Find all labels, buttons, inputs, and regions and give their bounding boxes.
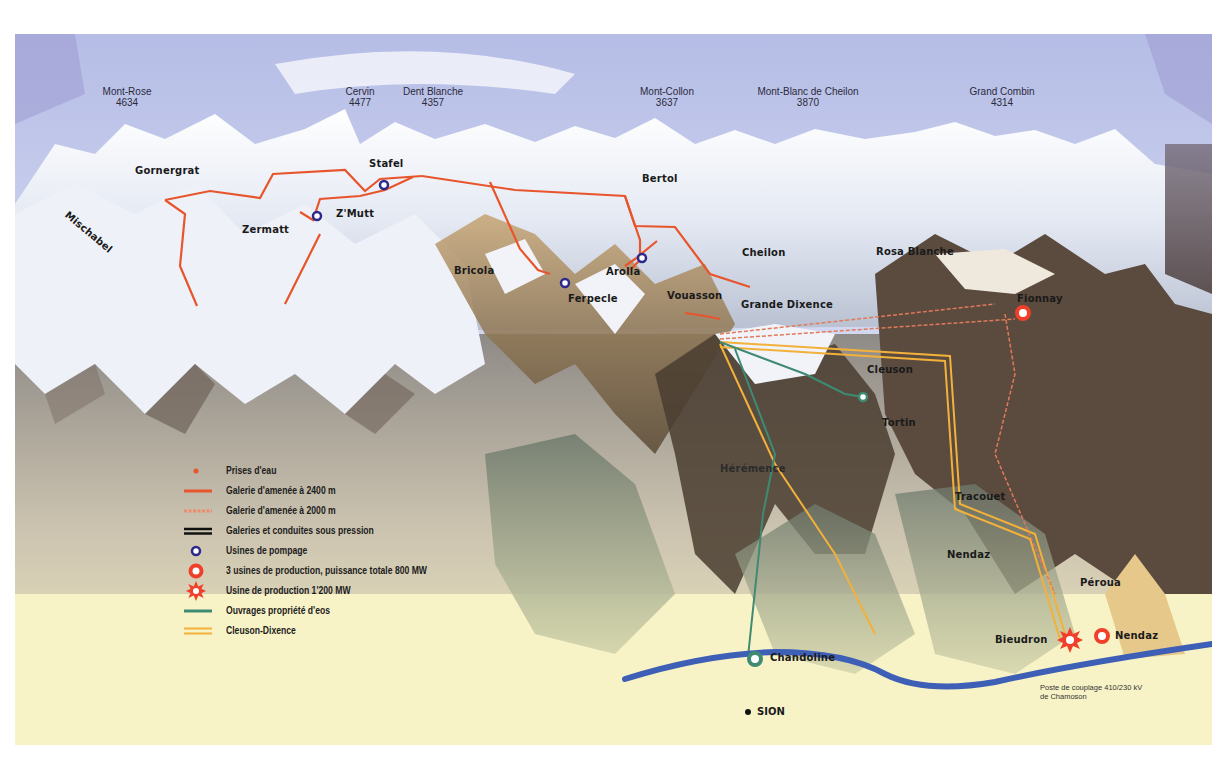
eos-works-line-icon xyxy=(182,603,216,619)
pumping-station-icon xyxy=(182,543,216,559)
place-label-chandoline: Chandoline xyxy=(770,652,835,663)
place-label-arolla: Arolla xyxy=(606,266,640,277)
place-label-zermatt: Zermatt xyxy=(242,224,289,235)
peak-label-grand-combin: Grand Combin4314 xyxy=(969,86,1034,108)
pressure-pipes-line-icon xyxy=(182,523,216,539)
place-label-stafel: Stafel xyxy=(369,158,404,169)
place-label-fionnay: Fionnay xyxy=(1017,293,1063,304)
city-label-sion: SION xyxy=(745,706,785,717)
production-plant-icon xyxy=(182,563,216,579)
legend-item-tunnel-2400: Galerie d'amenée à 2400 m xyxy=(182,483,562,499)
peak-label-dent-blanche: Dent Blanche4357 xyxy=(403,86,463,108)
legend-item-intake: Prises d'eau xyxy=(182,463,562,479)
legend-item-tunnel-2000: Galerie d'amenée à 2000 m xyxy=(182,503,562,519)
legend-item-eos-works: Ouvrages propriété d'eos xyxy=(182,603,562,619)
legend-item-cleuson-dixence: Cleuson-Dixence xyxy=(182,623,562,639)
place-label-bricola: Bricola xyxy=(454,265,494,276)
place-label-nendaz-plant: Nendaz xyxy=(1115,630,1158,641)
place-label-cheilon: Cheilon xyxy=(742,247,786,258)
legend-item-production-plant: 3 usines de production, puissance totale… xyxy=(182,563,562,579)
place-label-nendaz-village: Nendaz xyxy=(947,549,990,560)
place-label-grande-dixence: Grande Dixence xyxy=(741,299,833,310)
intake-dot-icon xyxy=(182,463,216,479)
peak-label-mont-blanc-de-cheilon: Mont-Blanc de Cheilon3870 xyxy=(757,86,858,108)
peak-label-mont-collon: Mont-Collon3637 xyxy=(640,86,694,108)
legend-item-pumping-station: Usines de pompage xyxy=(182,543,562,559)
place-label-ferpecle: Ferpecle xyxy=(568,293,618,304)
tunnel-2400-line-icon xyxy=(182,483,216,499)
cleuson-dixence-line-icon xyxy=(182,623,216,639)
place-label-rosa-blanche: Rosa Blanche xyxy=(876,246,954,257)
tunnel-2000-line-icon xyxy=(182,503,216,519)
place-label-tortin: Tortin xyxy=(882,417,916,428)
place-label-heremence: Hérémence xyxy=(720,463,786,474)
place-label-bertol: Bertol xyxy=(642,173,678,184)
place-label-vouasson: Vouasson xyxy=(667,290,722,301)
place-label-tracouet: Tracouet xyxy=(955,491,1005,502)
place-label-bieudron: Bieudron xyxy=(995,634,1048,645)
legend-item-pressure-pipes: Galeries et conduites sous pression xyxy=(182,523,562,539)
place-label-cleuson: Cleuson xyxy=(867,364,913,375)
place-label-peroua: Péroua xyxy=(1080,577,1121,588)
peak-label-cervin: Cervin4477 xyxy=(346,86,375,108)
production-star-icon xyxy=(182,583,216,599)
place-label-zmutt: Z'Mutt xyxy=(336,208,374,219)
place-label-gornergrat: Gornergrat xyxy=(135,165,199,176)
peak-label-mont-rose: Mont-Rose4634 xyxy=(103,86,152,108)
legend-item-large-production-plant: Usine de production 1'200 MW xyxy=(182,583,562,599)
substation-note: Poste de couplage 410/230 kV de Chamoson xyxy=(1040,683,1160,701)
city-dot-icon xyxy=(745,709,751,715)
